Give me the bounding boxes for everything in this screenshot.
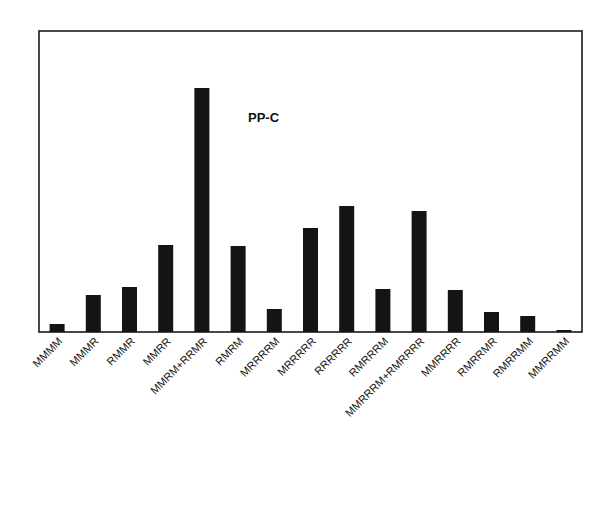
bars-group <box>50 88 572 332</box>
bar-rmrrmr <box>484 312 499 332</box>
x-tick-label: RMMR <box>104 335 137 368</box>
bar-chart: PP-C MMMMMMMRRMMRMMRRMMRM+RRMRRMRMMRRRRM… <box>0 0 603 506</box>
x-tick-labels: MMMMMMMRRMMRMMRRMMRM+RRMRRMRMMRRRRMMRRRR… <box>30 335 571 419</box>
bar-mmrm-plus-rrmr <box>194 88 209 332</box>
bar-mmmr <box>86 295 101 332</box>
bar-rmmr <box>122 287 137 332</box>
x-tick-label: MRRRRR <box>275 335 318 378</box>
bar-rmrrmm <box>520 316 535 332</box>
x-tick-label: MMRR <box>140 335 173 368</box>
chart-title: PP-C <box>248 110 280 125</box>
x-tick-label: RMRM <box>213 335 246 368</box>
bar-mmrrrm-plus-rmrrrr <box>412 211 427 332</box>
bar-mmmm <box>50 324 65 332</box>
bar-rrrrrr <box>339 206 354 332</box>
bar-mmrr <box>158 245 173 332</box>
bar-mmrrmm <box>556 330 571 332</box>
bar-rmrrrm <box>375 289 390 332</box>
x-tick-label: MMMM <box>30 335 64 369</box>
bar-mrrrrr <box>303 228 318 332</box>
bar-mrrrrm <box>267 309 282 332</box>
bar-mmrrrr <box>448 290 463 332</box>
x-tick-label: MRRRRM <box>238 335 282 379</box>
x-tick-label: MMMR <box>67 335 101 369</box>
bar-rmrm <box>231 246 246 332</box>
